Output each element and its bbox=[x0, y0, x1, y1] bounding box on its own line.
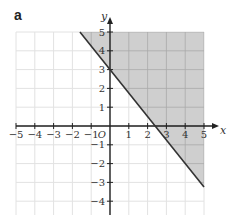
y-tick-label: −2 bbox=[90, 158, 105, 169]
x-tick-label: −4 bbox=[27, 129, 42, 140]
x-tick-label: 1 bbox=[126, 129, 132, 140]
x-tick-label: 2 bbox=[144, 129, 150, 140]
y-tick-label: 5 bbox=[99, 27, 105, 38]
x-axis-arrow-icon bbox=[212, 123, 219, 129]
y-tick-label: 1 bbox=[99, 102, 105, 113]
x-tick-label: 5 bbox=[201, 129, 207, 140]
y-tick-label: −1 bbox=[90, 139, 105, 150]
origin-label: O bbox=[98, 129, 106, 140]
y-tick-label: 4 bbox=[99, 45, 105, 56]
x-axis-label: x bbox=[220, 124, 227, 137]
y-tick-label: −4 bbox=[90, 196, 105, 207]
inequality-graph: −5−4−3−2−112345−4−3−2−112345Oxy bbox=[0, 0, 228, 215]
y-tick-label: −3 bbox=[90, 177, 105, 188]
x-tick-label: −5 bbox=[9, 129, 24, 140]
y-tick-label: 3 bbox=[99, 64, 105, 75]
x-tick-label: 4 bbox=[182, 129, 188, 140]
x-tick-label: −2 bbox=[65, 129, 80, 140]
y-axis-label: y bbox=[100, 10, 108, 23]
x-tick-label: −3 bbox=[46, 129, 61, 140]
y-axis-arrow-icon bbox=[107, 17, 113, 24]
y-tick-label: 2 bbox=[99, 83, 105, 94]
